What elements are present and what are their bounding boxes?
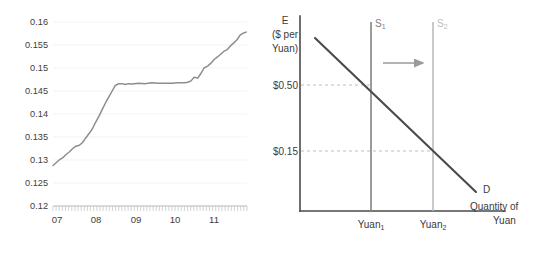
y-tick-0-12: 0.12 (30, 201, 48, 211)
y-axis-tick-labels: 0.16 0.155 0.15 0.145 0.14 0.135 0.13 0.… (25, 17, 48, 211)
y-tick-0-15: 0.15 (30, 63, 48, 73)
supply-demand-canvas: E ($ per Yuan) $0.50 $0.15 S1 S2 D Yuan1… (271, 0, 543, 255)
axes (300, 16, 505, 211)
exchange-rate-series-line (53, 32, 246, 165)
x-axis (53, 206, 247, 211)
x-tick-10: 10 (170, 214, 181, 225)
x-tick-07: 07 (52, 214, 63, 225)
price-label-low: $0.15 (273, 146, 298, 157)
y-axis-title-line-3: Yuan) (272, 43, 298, 54)
x-tick-08: 08 (91, 214, 102, 225)
x-axis-title: Quantity of Yuan (470, 201, 519, 226)
demand-label: D (483, 184, 490, 195)
y-tick-0-13: 0.13 (30, 155, 48, 165)
quantity-label-yuan-1: Yuan1 (358, 219, 385, 231)
y-tick-0-125: 0.125 (25, 178, 48, 188)
line-chart-canvas: 0.16 0.155 0.15 0.145 0.14 0.135 0.13 0.… (0, 0, 271, 255)
y-axis-title-line-2: ($ per (272, 29, 299, 40)
y-tick-0-16: 0.16 (30, 17, 48, 27)
supply-1-label: S1 (375, 18, 386, 30)
y-tick-0-155: 0.155 (25, 40, 48, 50)
y-tick-0-14: 0.14 (30, 109, 48, 119)
x-axis-title-line-2: Yuan (493, 215, 516, 226)
gridlines (53, 22, 247, 183)
x-axis-title-line-1: Quantity of (470, 201, 519, 212)
x-tick-11: 11 (209, 214, 219, 225)
supply-2-label: S2 (437, 18, 448, 30)
figure-root: 0.16 0.155 0.15 0.145 0.14 0.135 0.13 0.… (0, 0, 543, 255)
exchange-rate-line-chart: 0.16 0.155 0.15 0.145 0.14 0.135 0.13 0.… (0, 0, 271, 255)
y-tick-0-135: 0.135 (25, 132, 48, 142)
yuan-supply-demand-diagram: E ($ per Yuan) $0.50 $0.15 S1 S2 D Yuan1… (271, 0, 543, 255)
x-axis-minor-ticks (53, 206, 247, 211)
demand-curve (315, 38, 476, 192)
x-tick-09: 09 (131, 214, 142, 225)
price-label-high: $0.50 (273, 80, 298, 91)
y-axis-title: E ($ per Yuan) (272, 15, 299, 54)
equilibrium-guides (301, 85, 433, 151)
quantity-label-yuan-2: Yuan2 (420, 219, 447, 231)
y-axis-title-line-1: E (282, 15, 289, 26)
x-axis-tick-labels: 07 08 09 10 11 (52, 214, 219, 225)
y-tick-0-145: 0.145 (25, 86, 48, 96)
